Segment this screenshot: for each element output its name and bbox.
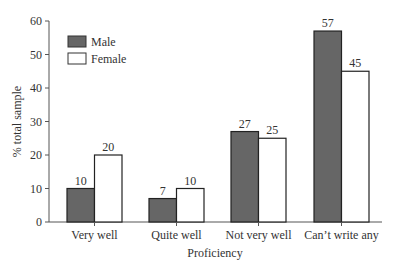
bar-female bbox=[259, 138, 287, 222]
bar-chart: 0102030405060% total sample1020Very well… bbox=[0, 0, 397, 269]
bar-value-label: 10 bbox=[75, 174, 87, 188]
y-tick-label: 20 bbox=[30, 148, 42, 162]
bar-value-label: 57 bbox=[322, 16, 334, 30]
bar-female bbox=[177, 189, 205, 223]
legend-swatch-female bbox=[68, 53, 86, 64]
y-tick-label: 40 bbox=[30, 81, 42, 95]
x-tick-label: Not very well bbox=[226, 228, 293, 242]
bar-male bbox=[231, 132, 259, 222]
x-axis-label: Proficiency bbox=[187, 246, 242, 260]
bar-male bbox=[314, 31, 342, 222]
bar-female bbox=[95, 155, 123, 222]
y-tick-label: 30 bbox=[30, 115, 42, 129]
bar-female bbox=[342, 71, 370, 222]
bar-male bbox=[67, 189, 95, 223]
bar-value-label: 10 bbox=[184, 174, 196, 188]
bar-value-label: 45 bbox=[349, 56, 361, 70]
y-tick-label: 50 bbox=[30, 48, 42, 62]
y-tick-label: 0 bbox=[36, 215, 42, 229]
bar-value-label: 27 bbox=[239, 117, 251, 131]
x-tick-label: Quite well bbox=[151, 228, 202, 242]
y-axis-label: % total sample bbox=[10, 86, 24, 157]
y-tick-label: 10 bbox=[30, 182, 42, 196]
x-tick-label: Very well bbox=[71, 228, 118, 242]
y-tick-label: 60 bbox=[30, 14, 42, 28]
legend-label-female: Female bbox=[91, 52, 126, 66]
bar-male bbox=[149, 199, 177, 222]
legend-label-male: Male bbox=[91, 35, 116, 49]
legend-swatch-male bbox=[68, 36, 86, 47]
bar-value-label: 25 bbox=[266, 123, 278, 137]
bar-value-label: 7 bbox=[160, 184, 166, 198]
bar-value-label: 20 bbox=[102, 140, 114, 154]
x-tick-label: Can’t write any bbox=[304, 228, 378, 242]
